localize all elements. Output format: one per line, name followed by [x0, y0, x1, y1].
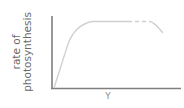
chart: rate of photosynthesis Y	[0, 0, 184, 108]
y-axis-label-line2: photosynthesis	[22, 12, 33, 92]
data-curve	[54, 22, 128, 89]
y-axis-label: rate of photosynthesis	[11, 12, 33, 92]
x-axis-label: Y	[105, 91, 111, 101]
data-curve-decline	[150, 22, 163, 34]
